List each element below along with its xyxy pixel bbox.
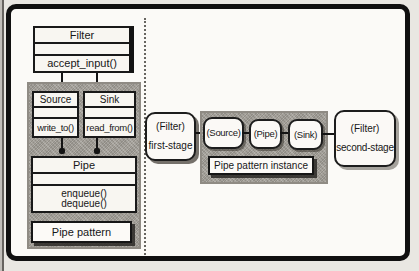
sink-instance-box: (Sink)	[288, 119, 323, 150]
source-class-method: write_to()	[34, 117, 77, 136]
pipe-class-methods: enqueue() dequeue()	[33, 184, 135, 211]
pipe-class-attributes-empty	[33, 172, 135, 184]
pipe-pattern-caption-box: Pipe pattern	[31, 221, 132, 243]
pipe-class-method-enqueue: enqueue()	[61, 189, 107, 199]
sink-instance-label: (Sink)	[294, 130, 317, 140]
second-stage-label: second-stage	[336, 143, 394, 153]
pipe-instance-box: (Pipe)	[249, 119, 282, 149]
sink-class-attributes-empty	[85, 106, 134, 117]
pipe-instance-label: (Pipe)	[254, 129, 278, 139]
connector-dot	[59, 148, 65, 154]
filter-class-method: accept_input()	[35, 54, 129, 71]
first-stage-label: first-stage	[149, 141, 193, 151]
first-stage-role: (Filter)	[156, 122, 185, 132]
pipe-pattern-caption: Pipe pattern	[52, 227, 111, 238]
filter-class-box: Filter accept_input()	[33, 26, 134, 73]
filter-class-attributes-empty	[35, 42, 129, 54]
scan-gutter-line	[2, 0, 4, 271]
pipe-pattern-instance-caption-box: Pipe pattern instance	[208, 156, 314, 175]
pipe-class-method-dequeue: dequeue()	[61, 199, 107, 209]
source-instance-box: (Source)	[203, 117, 244, 149]
source-class-name: Source	[34, 93, 77, 106]
first-stage-instance-box: (Filter) first-stage	[145, 112, 196, 161]
source-instance-label: (Source)	[206, 128, 240, 138]
source-class-attributes-empty	[34, 106, 77, 117]
filter-class-name: Filter	[35, 28, 129, 42]
pipe-class-name: Pipe	[33, 158, 135, 172]
pipe-link-line	[321, 133, 335, 135]
pipe-class-box: Pipe enqueue() dequeue()	[31, 156, 137, 213]
sink-class-name: Sink	[85, 93, 134, 106]
source-class-box: Source write_to()	[32, 91, 79, 138]
pipe-pattern-instance-caption: Pipe pattern instance	[214, 161, 308, 171]
sink-class-box: Sink read_from()	[83, 91, 136, 138]
scanned-figure-page: Filter accept_input() Source write_to() …	[0, 0, 419, 271]
second-stage-role: (Filter)	[351, 124, 380, 134]
second-stage-instance-box: (Filter) second-stage	[334, 110, 396, 167]
connector-dot	[94, 148, 100, 154]
sink-class-method: read_from()	[85, 117, 134, 136]
